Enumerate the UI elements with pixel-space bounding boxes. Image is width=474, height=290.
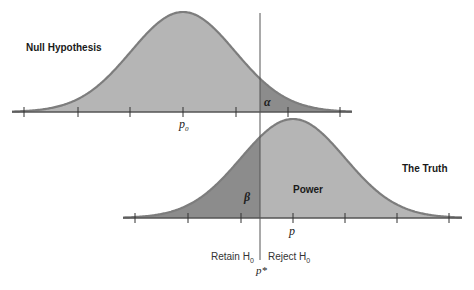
reject-h0-label: Reject H0 xyxy=(268,251,310,264)
p0-label: p0 xyxy=(179,117,189,133)
truth-label: The Truth xyxy=(402,163,448,174)
null-hypothesis-label: Null Hypothesis xyxy=(26,42,102,53)
beta-label: β xyxy=(244,190,250,205)
alpha-label: α xyxy=(264,95,271,110)
retain-h0-label: Retain H0 xyxy=(211,251,254,264)
p-label: p xyxy=(289,224,295,239)
p-star-label: p* xyxy=(256,264,267,276)
null-distribution xyxy=(12,12,352,117)
power-label: Power xyxy=(293,184,323,195)
